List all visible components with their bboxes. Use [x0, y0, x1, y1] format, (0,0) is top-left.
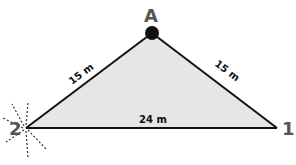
edge-label-2-1: 24 m — [139, 114, 167, 125]
vertex-label-1: 1 — [282, 118, 295, 139]
vertex-label-2: 2 — [9, 118, 22, 139]
vertex-label-A: A — [144, 5, 158, 26]
triangle-diagram: A 1 2 15 m 15 m 24 m — [0, 0, 296, 165]
edge-label-A-1: 15 m — [213, 58, 242, 84]
vertex-A-dot — [145, 26, 159, 40]
